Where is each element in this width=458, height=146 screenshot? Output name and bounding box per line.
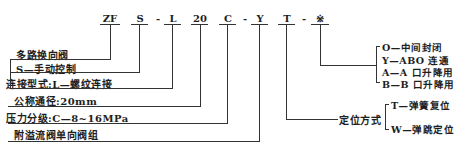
underline-nominal-diameter (8, 106, 201, 107)
function-option-b: B—B 口升降用 (382, 77, 455, 91)
leader-symbol (320, 24, 321, 65)
code-zf: ZF (100, 13, 120, 24)
code-s: S (130, 13, 150, 24)
function-option-o: O—中间封闭 (382, 40, 443, 54)
leader-t (286, 24, 287, 119)
underline-pressure (8, 123, 228, 124)
leader-20 (200, 24, 201, 106)
positioning-option-t: T—弹簧复位 (391, 98, 451, 112)
positioning-option-w: W—弹跳定位 (391, 122, 454, 136)
code-y: Y (250, 13, 270, 24)
leader-c (227, 24, 228, 123)
code-20: 20 (190, 13, 210, 24)
label-control: S—手动控制 (16, 61, 76, 76)
leader-symbol-horizontal (320, 65, 376, 66)
leader-s (139, 24, 140, 72)
function-bracket (376, 46, 380, 83)
leader-y (259, 24, 260, 141)
underline-type (10, 59, 111, 60)
leader-zf (110, 24, 111, 59)
code-symbol: ※ (310, 13, 330, 24)
positioning-bracket (385, 104, 389, 130)
underline-connection (10, 88, 173, 89)
leader-t-horizontal (286, 119, 338, 120)
underline-valve-group (8, 141, 260, 142)
label-valve-group: 附溢流阀单向阀组 (14, 127, 98, 142)
bracket-left-2 (10, 72, 11, 88)
bracket-left-1 (10, 59, 11, 72)
leader-l (172, 24, 173, 88)
positioning-title: 定位方式 (339, 112, 381, 127)
underline-control (10, 72, 140, 73)
code-l: L (163, 13, 183, 24)
